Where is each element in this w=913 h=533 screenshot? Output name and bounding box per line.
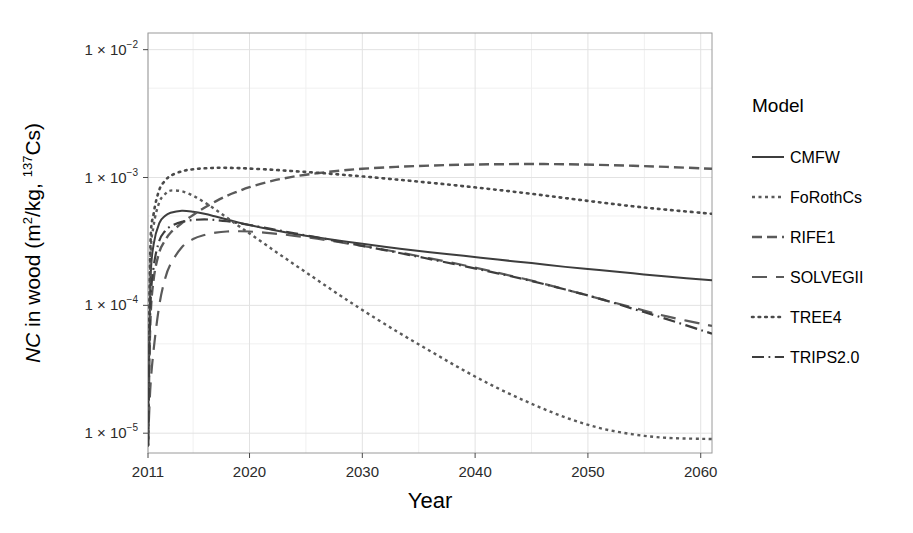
nc-in-wood-log-line-chart: 201120202030204020502060 1 × 10−21 × 10−… xyxy=(0,0,913,533)
legend-label: FoRothCs xyxy=(790,189,862,206)
chart-figure: 201120202030204020502060 1 × 10−21 × 10−… xyxy=(0,0,913,533)
x-tick-label-2040: 2040 xyxy=(458,463,491,480)
legend-label: RIFE1 xyxy=(790,229,835,246)
x-tick-label-2011: 2011 xyxy=(132,463,164,480)
x-tick-label-2050: 2050 xyxy=(571,463,604,480)
legend-label: TRIPS2.0 xyxy=(790,349,859,366)
x-tick-label-2030: 2030 xyxy=(346,463,379,480)
legend-label: CMFW xyxy=(790,149,841,166)
legend-title: Model xyxy=(752,95,804,116)
legend-label: SOLVEGII xyxy=(790,269,864,286)
x-tick-label-2060: 2060 xyxy=(684,463,717,480)
legend-label: TREE4 xyxy=(790,309,842,326)
x-axis-title: Year xyxy=(408,488,452,513)
x-tick-label-2020: 2020 xyxy=(233,463,266,480)
